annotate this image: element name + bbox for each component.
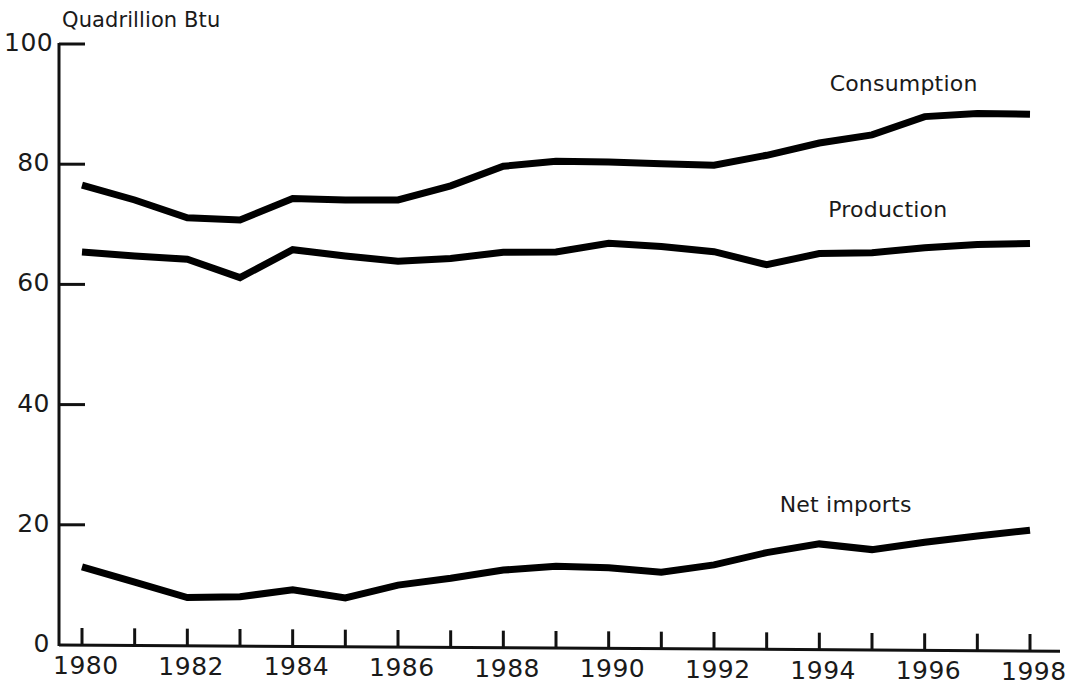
y-tick-label: 100 <box>4 28 50 57</box>
x-tick-label: 1986 <box>369 653 435 682</box>
series-label-net-imports: Net imports <box>780 492 912 517</box>
x-tick-label: 1996 <box>896 656 962 685</box>
x-tick-label: 1990 <box>580 654 646 683</box>
series-label-consumption: Consumption <box>830 71 978 96</box>
tick-marks <box>59 44 1030 651</box>
x-tick-label: 1992 <box>685 655 751 684</box>
x-axis-line <box>59 645 1060 651</box>
series-line-net-imports <box>82 530 1030 598</box>
x-tick-label: 1980 <box>53 651 119 680</box>
series-label-production: Production <box>828 197 947 222</box>
y-tick-label: 60 <box>4 268 50 297</box>
series-lines <box>82 113 1030 598</box>
y-tick-label: 0 <box>4 629 50 658</box>
x-tick-label: 1984 <box>264 652 330 681</box>
y-tick-label: 40 <box>4 389 50 418</box>
x-tick-label: 1988 <box>474 654 540 683</box>
y-tick-label: 80 <box>4 148 50 177</box>
x-tick-label: 1994 <box>790 656 856 685</box>
series-line-production <box>82 243 1030 277</box>
axis-lines <box>59 43 1060 651</box>
y-tick-label: 20 <box>4 509 50 538</box>
x-tick-label: 1982 <box>158 652 224 681</box>
x-tick-label: 1998 <box>1001 657 1067 686</box>
